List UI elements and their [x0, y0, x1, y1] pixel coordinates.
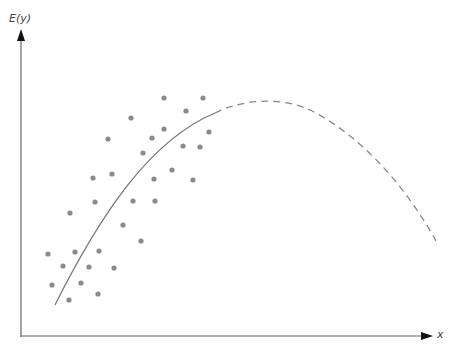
data-point — [96, 248, 101, 253]
data-point — [72, 249, 77, 254]
data-point — [95, 291, 100, 296]
data-point — [86, 264, 91, 269]
data-points — [45, 95, 211, 302]
data-point — [161, 95, 166, 100]
y-axis-arrow-icon — [17, 29, 25, 41]
data-point — [169, 167, 174, 172]
data-point — [90, 175, 95, 180]
data-point — [45, 251, 50, 256]
data-point — [111, 265, 116, 270]
data-point — [200, 95, 205, 100]
data-point — [138, 238, 143, 243]
data-point — [109, 171, 114, 176]
data-point — [120, 222, 125, 227]
data-point — [149, 135, 154, 140]
data-point — [197, 144, 202, 149]
data-point — [190, 177, 195, 182]
data-point — [60, 263, 65, 268]
data-point — [78, 280, 83, 285]
data-point — [128, 115, 133, 120]
data-point — [183, 108, 188, 113]
data-point — [130, 198, 135, 203]
data-point — [140, 150, 145, 155]
data-point — [151, 176, 156, 181]
axes — [17, 29, 433, 340]
data-point — [105, 136, 110, 141]
data-point — [152, 198, 157, 203]
data-point — [67, 210, 72, 215]
data-point — [66, 297, 71, 302]
data-point — [49, 282, 54, 287]
data-point — [206, 129, 211, 134]
data-point — [92, 199, 97, 204]
data-point — [180, 143, 185, 148]
data-point — [161, 126, 166, 131]
fitted-curve-solid — [55, 113, 215, 305]
regression-diagram — [0, 0, 456, 353]
y-axis-label: E(y) — [9, 12, 31, 25]
fitted-curve-extrapolated — [215, 101, 436, 241]
x-axis-arrow-icon — [421, 332, 433, 340]
x-axis-label: x — [437, 328, 444, 341]
